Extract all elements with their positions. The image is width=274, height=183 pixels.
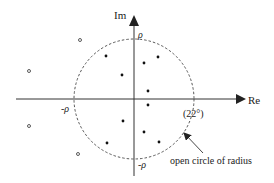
real-axis-arrow-icon (236, 94, 246, 104)
open-point (28, 125, 31, 128)
pole-point (105, 55, 108, 58)
pole-point (157, 56, 160, 59)
pole-zero-diagram: Re Im ρ -ρ -ρ (22°) open circle of radiu… (0, 0, 274, 183)
pole-point (143, 62, 146, 65)
label-rho-left: -ρ (61, 103, 69, 114)
pole-point (121, 74, 124, 77)
label-rho-top: ρ (137, 29, 143, 40)
open-point (77, 153, 80, 156)
pole-point (122, 120, 125, 123)
real-axis-label: Re (248, 94, 260, 106)
annotation-arrow-icon (184, 133, 203, 153)
imag-axis-label: Im (114, 9, 127, 21)
open-points (28, 39, 82, 156)
annotation-text: open circle of radius (170, 155, 252, 166)
imag-axis-arrow-icon (129, 15, 139, 26)
pole-point (158, 141, 161, 144)
open-point (28, 70, 31, 73)
pole-point (106, 142, 109, 145)
label-angle: (22°) (183, 108, 204, 120)
open-point (79, 39, 82, 42)
pole-point (147, 104, 150, 107)
pole-point (147, 90, 150, 93)
pole-point (143, 131, 146, 134)
label-rho-bottom: -ρ (138, 159, 146, 170)
